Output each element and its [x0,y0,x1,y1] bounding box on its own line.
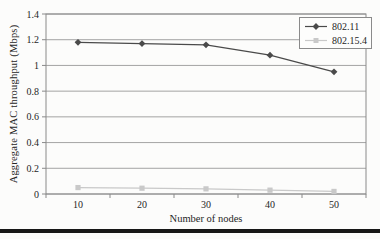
y-tick-label: 1 [34,60,39,71]
y-tick-label: 0.2 [27,163,40,174]
chart-figure: 00.20.40.60.811.21.41020304050 Aggregate… [0,0,380,239]
legend-marker-square-icon [304,36,328,45]
y-tick-label: 0.6 [27,111,40,122]
data-point-square-802.15.4 [331,189,336,194]
x-tick-label: 40 [265,199,275,210]
data-point-square-802.15.4 [203,186,208,191]
legend-label-802-15-4: 802.15.4 [332,35,367,46]
y-tick-label: 1.4 [27,9,40,20]
data-point-diamond-802.11 [267,52,274,59]
x-tick-label: 10 [73,199,83,210]
x-axis-title: Number of nodes [46,213,366,224]
y-tick-label: 0 [34,189,39,200]
y-axis-title: Aggregate MAC throughput (Mbps) [8,25,19,184]
y-tick-label: 0.8 [27,86,40,97]
legend: 802.11 802.15.4 [299,17,372,49]
legend-marker-diamond-icon [304,22,328,31]
data-point-square-802.15.4 [139,186,144,191]
legend-label-802-11: 802.11 [332,21,359,32]
bottom-rule [0,229,380,233]
x-tick-label: 20 [137,199,147,210]
legend-item-802-11: 802.11 [303,19,368,33]
x-tick-label: 50 [329,199,339,210]
y-tick-label: 1.2 [27,34,40,45]
data-point-square-802.15.4 [75,185,80,190]
data-point-square-802.15.4 [267,188,272,193]
data-point-diamond-802.11 [203,41,210,48]
legend-item-802-15-4: 802.15.4 [303,33,368,47]
x-tick-label: 30 [201,199,211,210]
y-tick-label: 0.4 [27,137,40,148]
data-point-diamond-802.11 [139,40,146,47]
data-point-diamond-802.11 [331,68,338,75]
